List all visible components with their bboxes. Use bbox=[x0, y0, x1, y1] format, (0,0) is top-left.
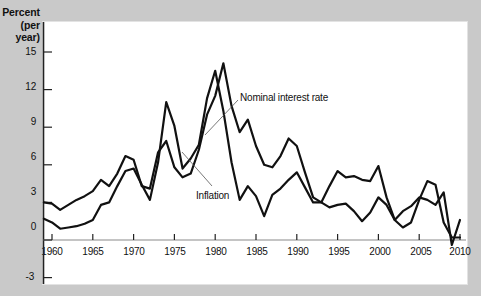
series-line-inflation bbox=[44, 71, 460, 245]
axes-layer bbox=[44, 22, 467, 284]
series-layer bbox=[44, 63, 460, 245]
chart-svg bbox=[0, 0, 481, 296]
series-line-nominal-interest-rate bbox=[44, 63, 460, 237]
figure: Percent (per year) 15 12 9 6 3 0 -3 1960… bbox=[0, 0, 481, 296]
